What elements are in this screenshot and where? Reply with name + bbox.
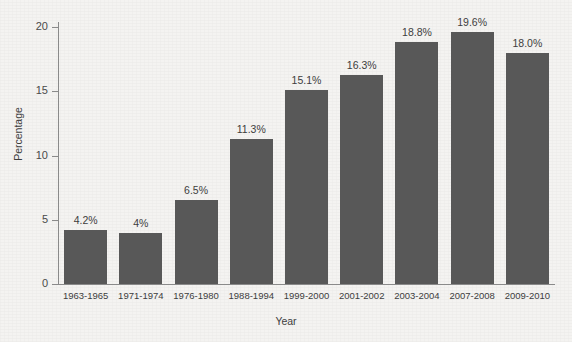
bar-value-label: 4%: [109, 218, 172, 229]
y-axis-title: Percentage: [12, 94, 24, 174]
x-tick-label: 1963-1965: [54, 291, 117, 301]
x-axis-title: Year: [0, 315, 572, 327]
bar-value-label: 4.2%: [54, 215, 117, 226]
bar: [451, 32, 494, 284]
x-tick-label: 2009-2010: [496, 291, 559, 301]
bar-value-label: 6.5%: [165, 185, 228, 196]
bar-value-label: 19.6%: [441, 17, 504, 28]
bar: [506, 53, 549, 284]
bar-value-label: 15.1%: [275, 75, 338, 86]
x-tick-label: 2003-2004: [385, 291, 448, 301]
bar-value-label: 18.0%: [496, 38, 559, 49]
x-tick-label: 2001-2002: [330, 291, 393, 301]
bar-value-label: 18.8%: [385, 27, 448, 38]
plot-area: [58, 22, 555, 284]
y-tick-label: 5: [0, 214, 48, 225]
bar-value-label: 16.3%: [330, 60, 393, 71]
bar: [175, 200, 218, 284]
bar: [395, 42, 438, 284]
y-tick-label: 0: [0, 278, 48, 289]
y-tick-label: 10: [0, 150, 48, 161]
bar: [64, 230, 107, 284]
x-tick-label: 2007-2008: [441, 291, 504, 301]
bar: [119, 233, 162, 284]
bar: [230, 139, 273, 284]
x-tick-label: 1988-1994: [220, 291, 283, 301]
x-tick-label: 1971-1974: [109, 291, 172, 301]
x-tick-label: 1999-2000: [275, 291, 338, 301]
y-tick-label: 20: [0, 21, 48, 32]
y-tick-label: 15: [0, 85, 48, 96]
bar: [285, 90, 328, 284]
bar-value-label: 11.3%: [220, 124, 283, 135]
x-axis-line: [58, 284, 555, 285]
bar: [340, 75, 383, 284]
x-tick-label: 1976-1980: [164, 291, 227, 301]
bar-chart: Percentage 05101520 1963-19651971-197419…: [0, 0, 572, 342]
